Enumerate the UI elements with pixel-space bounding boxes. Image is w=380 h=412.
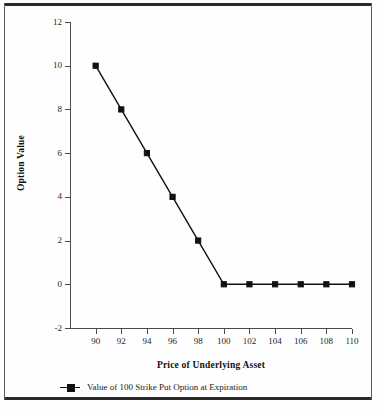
x-tick-90 [96, 329, 97, 334]
y-tick-12 [65, 22, 70, 23]
y-tick--2 [65, 328, 70, 329]
data-point-marker [298, 282, 303, 287]
data-point-marker [170, 194, 175, 199]
x-tick-98 [198, 329, 199, 334]
data-point-marker [144, 151, 149, 156]
y-tick-label-2: 2 [22, 236, 62, 245]
x-tick-92 [121, 329, 122, 334]
x-tick-104 [275, 329, 276, 334]
x-tick-108 [326, 329, 327, 334]
y-tick-10 [65, 66, 70, 67]
y-tick-2 [65, 241, 70, 242]
data-point-marker [324, 282, 329, 287]
y-tick-label-10: 10 [22, 61, 62, 70]
x-tick-100 [224, 329, 225, 334]
data-point-marker [272, 282, 277, 287]
x-tick-106 [301, 329, 302, 334]
y-tick-label--2: -2 [22, 324, 62, 333]
data-point-marker [221, 282, 226, 287]
chart-legend: Value of 100 Strike Put Option at Expira… [60, 382, 247, 392]
data-point-marker [119, 107, 124, 112]
y-tick-8 [65, 109, 70, 110]
x-axis-line [70, 328, 352, 329]
y-tick-label-4: 4 [22, 192, 62, 201]
y-tick-label-6: 6 [22, 149, 62, 158]
data-point-marker [196, 238, 201, 243]
legend-marker-icon [60, 383, 80, 392]
y-tick-label-12: 12 [22, 18, 62, 27]
y-tick-0 [65, 284, 70, 285]
x-tick-94 [147, 329, 148, 334]
y-tick-label-8: 8 [22, 105, 62, 114]
data-point-marker [247, 282, 252, 287]
legend-entry-label: Value of 100 Strike Put Option at Expira… [87, 382, 247, 392]
y-tick-6 [65, 153, 70, 154]
data-point-marker [349, 282, 354, 287]
y-axis-line [70, 22, 71, 329]
x-tick-110 [352, 329, 353, 334]
y-axis-title: Option Value [16, 118, 26, 208]
x-axis-title: Price of Underlying Asset [70, 360, 352, 370]
chart-figure: 121086420-2 9092949698100102104106108110… [0, 0, 380, 412]
x-tick-96 [173, 329, 174, 334]
y-tick-4 [65, 197, 70, 198]
x-tick-label-110: 110 [337, 337, 367, 346]
plot-area: 121086420-2 9092949698100102104106108110… [0, 0, 380, 412]
x-tick-102 [249, 329, 250, 334]
y-tick-label-0: 0 [22, 280, 62, 289]
data-point-marker [93, 63, 98, 68]
